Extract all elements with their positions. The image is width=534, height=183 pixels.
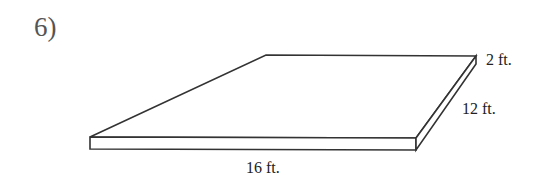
length-label: 16 ft.	[246, 159, 280, 177]
prism-top-face	[90, 55, 476, 138]
rectangular-prism-diagram	[0, 0, 534, 183]
width-label: 12 ft.	[462, 100, 496, 118]
prism-front-face	[90, 137, 416, 150]
height-label: 2 ft.	[486, 51, 512, 69]
